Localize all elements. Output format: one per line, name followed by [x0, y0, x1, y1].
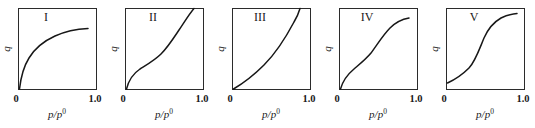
panel-III-y-axis-label: q: [214, 46, 226, 52]
panel-III-curve: [234, 9, 301, 90]
panel-I-y-axis-label: q: [0, 46, 12, 52]
panel-III-xtick-max: 1.0: [302, 93, 315, 104]
panel-I-axis-frame: [19, 9, 97, 90]
panel-III-xtick-min: 0: [227, 93, 232, 104]
panel-III-xlabel-sup: 0: [276, 107, 280, 116]
panel-IV-x-axis-label: p/p0: [368, 107, 387, 120]
panel-I: I q 0 1.0 p/p0: [0, 0, 107, 128]
panel-IV-plot: IV q 0 1.0 p/p0: [321, 0, 428, 128]
panel-I-plot: I q 0 1.0 p/p0: [0, 0, 107, 128]
panel-V-plot: V q 0 1.0 p/p0: [428, 0, 535, 128]
panel-V-xlabel-num: p: [475, 108, 482, 120]
panel-V-y-axis-label: q: [428, 46, 440, 52]
panel-IV-xlabel-sup: 0: [383, 107, 387, 116]
panel-III-axis-frame: [233, 9, 311, 90]
panel-III: III q 0 1.0 p/p0: [214, 0, 321, 128]
panel-II-numeral: II: [149, 10, 157, 24]
panel-IV-curve: [341, 18, 410, 89]
isotherm-classification-figure: I q 0 1.0 p/p0 II q 0 1.0 p/p0 III q 0 1…: [0, 0, 535, 128]
panel-II-xtick-max: 1.0: [195, 93, 208, 104]
panel-II-plot: II q 0 1.0 p/p0: [107, 0, 214, 128]
panel-III-numeral: III: [254, 10, 266, 24]
panel-II-xlabel-sup: 0: [169, 107, 173, 116]
panel-I-xtick-min: 0: [13, 93, 18, 104]
panel-I-numeral: I: [44, 10, 48, 24]
panel-II-curve: [127, 9, 195, 90]
panel-I-xlabel-sup: 0: [62, 107, 66, 116]
panel-IV-xlabel-num: p: [368, 108, 375, 120]
panel-I-curve: [20, 29, 89, 90]
panel-III-x-axis-label: p/p0: [261, 107, 280, 120]
panel-IV-numeral: IV: [361, 10, 374, 24]
panel-I-xlabel-num: p: [47, 108, 54, 120]
panel-IV: IV q 0 1.0 p/p0: [321, 0, 428, 128]
panel-IV-xtick-min: 0: [334, 93, 339, 104]
panel-V-xtick-max: 1.0: [516, 93, 529, 104]
panel-V-x-axis-label: p/p0: [475, 107, 494, 120]
panel-IV-y-axis-label: q: [321, 46, 333, 52]
panel-V: V q 0 1.0 p/p0: [428, 0, 535, 128]
panel-V-xlabel-sup: 0: [490, 107, 494, 116]
panel-III-plot: III q 0 1.0 p/p0: [214, 0, 321, 128]
panel-II-x-axis-label: p/p0: [154, 107, 173, 120]
panel-III-xlabel-num: p: [261, 108, 268, 120]
panel-V-xtick-min: 0: [441, 93, 446, 104]
panel-I-x-axis-label: p/p0: [47, 107, 66, 120]
panel-II-y-axis-label: q: [107, 46, 119, 52]
panel-V-numeral: V: [470, 10, 479, 24]
panel-II-xtick-min: 0: [120, 93, 125, 104]
panel-II-xlabel-num: p: [154, 108, 161, 120]
panel-IV-xtick-max: 1.0: [409, 93, 422, 104]
panel-IV-axis-frame: [340, 9, 418, 90]
panel-II: II q 0 1.0 p/p0: [107, 0, 214, 128]
panel-I-xtick-max: 1.0: [88, 93, 101, 104]
panel-V-curve: [448, 14, 518, 84]
